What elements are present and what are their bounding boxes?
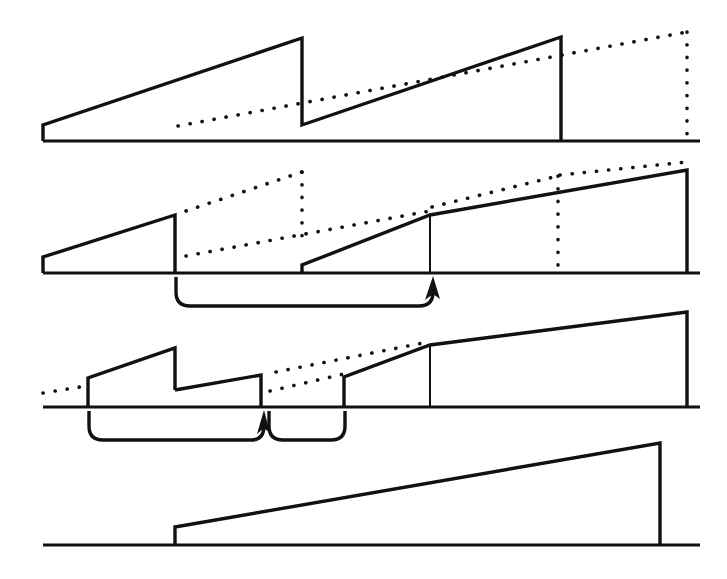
panel-3-brace-2 xyxy=(269,411,345,440)
panel-4-solid-ramp xyxy=(175,443,660,545)
panel-3-brace-1 xyxy=(89,411,264,440)
waveform-diagram xyxy=(0,0,727,579)
panel-3-dotted-left xyxy=(43,387,80,393)
panel-3-brace-annotation-1 xyxy=(89,410,270,440)
panel-3-solid-segment-a xyxy=(88,348,175,407)
panel-3-solid-segment-c xyxy=(344,312,687,407)
panel-2-solid-segment-b xyxy=(302,170,687,273)
panel-2-dotted-upper xyxy=(186,172,302,211)
panel-2-dotted-lower xyxy=(186,211,430,256)
panel-2-brace xyxy=(176,277,433,306)
panel-4 xyxy=(43,443,700,545)
panel-1 xyxy=(43,32,700,141)
panel-2 xyxy=(43,162,700,306)
panel-2-solid-segment-a xyxy=(43,215,175,273)
panel-3 xyxy=(43,312,700,440)
panel-2-brace-annotation xyxy=(176,276,440,306)
figure-container xyxy=(0,0,727,579)
panel-3-dotted-upper xyxy=(276,342,428,372)
panel-3-solid-segment-b xyxy=(175,375,261,407)
panel-1-solid-sawtooth xyxy=(43,37,561,141)
panel-3-brace-annotation-2 xyxy=(269,411,345,440)
panel-3-dotted-lower xyxy=(270,374,344,391)
